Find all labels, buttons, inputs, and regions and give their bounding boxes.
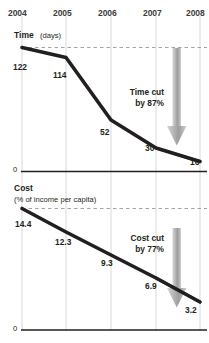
time-panel-subtitle: (days) [40, 31, 61, 40]
cost-value-2007: 6.9 [145, 281, 157, 291]
time-zero-label: 0 [13, 165, 17, 174]
time-value-2006: 52 [100, 127, 109, 137]
cost-value-2004: 14.4 [15, 219, 31, 229]
cost-panel-subtitle: (% of income per capita) [14, 195, 96, 204]
cost-value-2005: 12.3 [55, 237, 71, 247]
time-callout-line1: Time cut [112, 87, 164, 97]
axis-year-2006: 2006 [98, 8, 117, 18]
cost-callout-line1: Cost cut [112, 233, 164, 243]
chart-vector-layer [0, 0, 209, 343]
time-value-2008: 16 [190, 157, 199, 167]
axis-year-2007: 2007 [143, 8, 162, 18]
time-value-2007: 30 [145, 143, 154, 153]
time-value-2004: 122 [13, 62, 27, 72]
cost-callout-line2: by 77% [112, 244, 164, 254]
cost-zero-label: 0 [13, 324, 17, 333]
cost-value-2008: 3.2 [185, 305, 197, 315]
axis-year-2008: 2008 [186, 8, 205, 18]
infographic-root: 2004 2005 2006 2007 2008 Time (days) 122… [0, 0, 209, 343]
time-panel-title: Time [14, 30, 34, 40]
down-arrow-icon-cost [167, 228, 187, 308]
cost-panel-title: Cost [14, 183, 33, 193]
time-callout-line2: by 87% [112, 98, 164, 108]
axis-year-2004: 2004 [8, 8, 27, 18]
down-arrow-icon-time [167, 48, 187, 146]
axis-year-2005: 2005 [53, 8, 72, 18]
time-value-2005: 114 [53, 70, 67, 80]
cost-value-2006: 9.3 [101, 258, 113, 268]
